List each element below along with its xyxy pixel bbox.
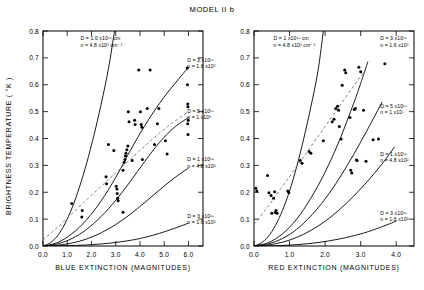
data-point: [350, 171, 353, 174]
data-point: [270, 212, 273, 215]
observed-fit-line: [43, 112, 188, 240]
curve-annotation-D: D = 3 x10¹⁹: [187, 213, 214, 219]
curve-annotation-n: n = 4.8 x10²: [187, 163, 215, 169]
plot-area: [254, 31, 396, 246]
data-point: [156, 122, 159, 125]
curve-annotation-D: D = 1 x10¹⁸ cm: [274, 35, 309, 41]
x-tick-label: 0.0: [249, 251, 259, 258]
curve-annotation-n: n = 1.6 x10²: [187, 219, 215, 225]
data-point: [266, 174, 269, 177]
figure-container: MODEL II b BRIGHTNESS TEMPERATURE ( °K )…: [0, 0, 424, 290]
x-tick-label: 1.0: [285, 251, 295, 258]
curve-annotation-n: n = 1.6 x10³: [380, 42, 408, 48]
data-point: [166, 153, 169, 156]
data-point: [149, 68, 152, 71]
curve-annotation-n: n = 4.8 x10²: [380, 157, 408, 163]
y-tick-label: 0.7: [29, 54, 39, 61]
data-point: [353, 108, 356, 111]
y-tick-label: 0.0: [29, 243, 39, 250]
data-point: [123, 161, 126, 164]
y-tick-label: 0.3: [29, 162, 39, 169]
y-tick-label: 0.2: [29, 189, 39, 196]
data-point: [377, 138, 380, 141]
x-tick-label: 0.0: [38, 251, 48, 258]
data-point: [139, 110, 142, 113]
data-point: [128, 120, 131, 123]
data-point: [105, 175, 108, 178]
data-point: [146, 107, 149, 110]
x-tick-label: 6.0: [184, 251, 194, 258]
data-point: [331, 120, 334, 123]
model-curve: [43, 118, 188, 246]
x-tick-label: 4.0: [135, 251, 145, 258]
curve-annotation-D: D = 1 x10¹⁹: [187, 156, 214, 162]
data-point: [137, 68, 140, 71]
curve-annotation-n: n = 1 x10³: [187, 114, 211, 120]
data-point: [357, 66, 360, 69]
data-point: [140, 123, 143, 126]
data-point: [186, 133, 189, 136]
y-tick-label: 0.4: [240, 135, 250, 142]
curve-annotation-n: n = 4.8 x10³ cm⁻³: [274, 42, 316, 48]
data-point: [287, 191, 290, 194]
model-curve: [43, 67, 188, 246]
data-point: [131, 159, 134, 162]
data-point: [349, 169, 352, 172]
data-point: [115, 188, 118, 191]
y-tick-label: 0.1: [240, 216, 250, 223]
data-point: [140, 126, 143, 129]
plot-frame: [43, 31, 203, 246]
x-tick-label: 2.0: [320, 251, 330, 258]
data-point: [309, 152, 312, 155]
y-tick-label: 0.6: [240, 81, 250, 88]
data-point: [272, 197, 275, 200]
x-tick-label: 4.0: [391, 251, 401, 258]
data-point: [116, 197, 119, 200]
plot-area: [43, 31, 190, 246]
curve-annotation-D: D = 5 x10¹⁸: [380, 103, 407, 109]
data-point: [186, 103, 189, 106]
data-point: [299, 159, 302, 162]
data-point: [117, 199, 120, 202]
y-tick-label: 0.3: [240, 162, 250, 169]
x-tick-label: 2.0: [87, 251, 97, 258]
data-point: [273, 190, 276, 193]
data-point: [164, 139, 167, 142]
data-point: [112, 149, 115, 152]
data-point: [116, 192, 119, 195]
y-tick-label: 0.0: [240, 243, 250, 250]
data-point: [186, 83, 189, 86]
data-point: [267, 191, 270, 194]
x-axis-label: BLUE EXTINCTION (MAGNITUDES): [55, 264, 191, 272]
model-curve: [254, 102, 382, 246]
data-point: [122, 169, 125, 172]
model-iib-figure: MODEL II b BRIGHTNESS TEMPERATURE ( °K )…: [0, 0, 424, 290]
data-point: [186, 122, 189, 125]
data-point: [105, 182, 108, 185]
curve-annotation-n: n = 4.8 x10³ cm⁻³: [81, 42, 123, 48]
curve-annotation-D: D = 5 x10¹⁸: [187, 108, 214, 114]
data-point: [356, 159, 359, 162]
curve-annotation-n: n = 1.6 x10³: [187, 63, 215, 69]
panel-blue-extinction: 0.00.10.20.30.40.50.60.70.80.01.02.03.04…: [29, 28, 215, 272]
x-tick-label: 5.0: [159, 251, 169, 258]
data-point: [125, 148, 128, 151]
model-curve: [43, 168, 188, 246]
data-point: [81, 209, 84, 212]
data-point: [122, 211, 125, 214]
data-point: [133, 119, 136, 122]
curve-annotation-D: D = 3 x10¹⁸: [187, 57, 214, 63]
data-point: [126, 145, 129, 148]
data-point: [80, 215, 83, 218]
data-point: [124, 154, 127, 157]
y-tick-label: 0.5: [29, 108, 39, 115]
y-tick-label: 0.5: [240, 108, 250, 115]
data-point: [134, 123, 137, 126]
y-tick-label: 0.6: [29, 81, 39, 88]
figure-title: MODEL II b: [190, 5, 235, 14]
x-axis-label: RED EXTINCTION (MAGNITUDES): [268, 264, 399, 272]
data-point: [127, 110, 130, 113]
x-tick-label: 3.0: [111, 251, 121, 258]
data-point: [254, 187, 257, 190]
data-point: [123, 158, 126, 161]
